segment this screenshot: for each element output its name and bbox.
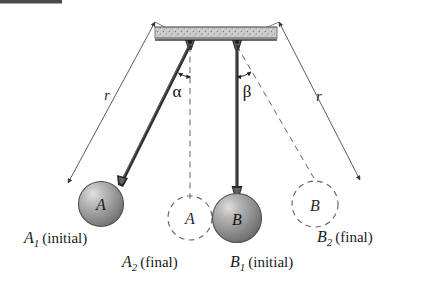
support-ceiling-bar	[155, 27, 277, 40]
ghost-ball-a-label: A	[184, 210, 195, 227]
ghost-ball-b-label: B	[310, 197, 320, 214]
angle-beta: β	[237, 72, 251, 101]
angle-beta-label: β	[243, 82, 252, 101]
radius-label-left: r	[104, 88, 110, 103]
caption-a1-var: A	[23, 229, 34, 246]
ball-a-label: A	[95, 196, 106, 213]
radius-dimension-left	[68, 22, 155, 183]
caption-a2-text: (final)	[140, 254, 177, 271]
caption-a1-sub: 1	[34, 237, 40, 249]
caption-a1: A1(initial)	[23, 229, 87, 249]
caption-a2-var: A	[121, 253, 132, 270]
pendulum-figure: A B A B α β r r	[0, 0, 423, 289]
ghost-ball-a: A	[168, 196, 212, 240]
svg-text:B1(initial): B1(initial)	[230, 253, 293, 273]
radius-label-right: r	[316, 89, 322, 104]
svg-text:A1(initial): A1(initial)	[23, 229, 87, 249]
caption-b2-sub: 2	[327, 236, 333, 248]
caption-b1-text: (initial)	[248, 254, 293, 271]
caption-b1: B1(initial)	[230, 253, 293, 273]
caption-b2-text: (final)	[335, 229, 372, 246]
caption-b1-var: B	[230, 253, 240, 270]
ball-b: B	[213, 194, 262, 243]
caption-a2: A2(final)	[121, 253, 178, 273]
pendulum-b-rod	[236, 45, 237, 192]
caption-b1-sub: 1	[240, 261, 246, 273]
ghost-ball-b: B	[292, 181, 338, 227]
swing-reference-b	[237, 46, 315, 180]
page-edge-artifact	[0, 0, 62, 4]
caption-a2-sub: 2	[132, 261, 138, 273]
caption-a1-text: (initial)	[42, 230, 87, 247]
svg-text:B2(final): B2(final)	[317, 228, 373, 248]
ball-b-label: B	[232, 211, 242, 228]
caption-b2: B2(final)	[317, 228, 373, 248]
pendulum-a-clamp	[117, 175, 128, 187]
caption-b2-var: B	[317, 228, 327, 245]
angle-alpha-label: α	[173, 82, 182, 101]
ball-a: A	[79, 182, 124, 227]
svg-text:A2(final): A2(final)	[121, 253, 178, 273]
